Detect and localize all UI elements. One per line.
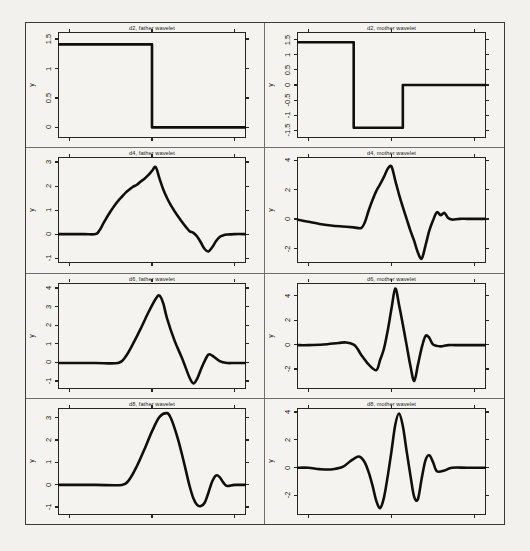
x-axis-tick (234, 515, 235, 518)
y-axis-tick (55, 325, 58, 326)
y-axis-tick (55, 68, 58, 69)
wavelet-path (297, 288, 486, 381)
y-axis-tick-right (246, 343, 249, 344)
wavelet-path (297, 42, 486, 127)
x-axis-tick-top (151, 29, 152, 32)
x-axis-tick-top (474, 279, 475, 282)
y-axis-tick (55, 258, 58, 259)
x-axis-tick-top (391, 405, 392, 408)
y-axis-tick (55, 186, 58, 187)
wavelet-path (58, 167, 246, 252)
y-axis-tick-right (246, 68, 249, 69)
x-axis-tick-top (69, 29, 70, 32)
x-axis-tick-top (391, 154, 392, 157)
x-axis-tick-top (391, 29, 392, 32)
y-axis-tick (294, 248, 297, 249)
x-axis-tick (69, 515, 70, 518)
x-axis-tick (151, 263, 152, 266)
panel-cell-d4-father: y -10123 d4, father wavelet (26, 148, 265, 273)
x-axis-tick (474, 263, 475, 266)
y-axis-tick (55, 343, 58, 344)
y-axis-tick-right (246, 97, 249, 98)
x-axis-tick (391, 515, 392, 518)
x-axis-tick-top (151, 405, 152, 408)
wavelet-curve (26, 148, 264, 272)
wavelet-curve (265, 23, 504, 147)
y-axis-tick-right (486, 368, 489, 369)
y-axis-tick (294, 368, 297, 369)
y-axis-tick (55, 417, 58, 418)
x-axis-tick-top (308, 279, 309, 282)
x-axis-tick-top (234, 279, 235, 282)
y-axis-tick-right (486, 84, 489, 85)
x-axis-tick-top (69, 279, 70, 282)
y-axis-tick (294, 130, 297, 131)
x-axis-tick (151, 138, 152, 141)
y-axis-tick-right (246, 161, 249, 162)
x-axis-tick (308, 515, 309, 518)
x-axis-tick-top (234, 29, 235, 32)
y-axis-tick-right (246, 186, 249, 187)
y-axis-tick-right (246, 462, 249, 463)
y-axis-tick (294, 411, 297, 412)
plot-d2-mother: y -1.5-1-0.500.511.5 d2, mother wavelet (265, 23, 504, 147)
panel-cell-d2-mother: y -1.5-1-0.500.511.5 d2, mother wavelet (265, 23, 504, 148)
x-axis-tick-top (69, 154, 70, 157)
y-axis-tick-right (246, 258, 249, 259)
panel-cell-d8-father: y -10123 d8, father wavelet (26, 399, 265, 524)
x-axis-tick-top (474, 405, 475, 408)
wavelet-figure-frame: y 00.511.5 d2, father wavelet y -1.5-1-0… (25, 22, 505, 525)
x-axis-tick (391, 263, 392, 266)
y-axis-tick-right (246, 234, 249, 235)
panel-grid: y 00.511.5 d2, father wavelet y -1.5-1-0… (26, 23, 504, 524)
y-axis-tick-right (246, 127, 249, 128)
y-axis-tick (55, 506, 58, 507)
plot-d2-father: y 00.511.5 d2, father wavelet (26, 23, 264, 147)
wavelet-path (297, 166, 486, 259)
x-axis-tick-top (474, 154, 475, 157)
y-axis-tick-right (486, 439, 489, 440)
y-axis-tick-right (486, 411, 489, 412)
x-axis-tick (474, 515, 475, 518)
plot-d8-mother: y -2024 d8, mother wavelet (265, 399, 504, 524)
y-axis-tick-right (246, 506, 249, 507)
y-axis-tick (55, 484, 58, 485)
y-axis-tick (294, 218, 297, 219)
y-axis-tick (294, 160, 297, 161)
y-axis-tick-right (486, 39, 489, 40)
x-axis-tick (308, 389, 309, 392)
x-axis-tick-top (151, 154, 152, 157)
plot-d6-mother: y -2024 d6, mother wavelet (265, 274, 504, 398)
y-axis-tick-right (246, 362, 249, 363)
panel-cell-d6-mother: y -2024 d6, mother wavelet (265, 274, 504, 399)
y-axis-tick-right (486, 295, 489, 296)
plot-d4-father: y -10123 d4, father wavelet (26, 148, 264, 272)
y-axis-tick-right (486, 130, 489, 131)
wavelet-curve (26, 399, 264, 524)
panel-cell-d4-mother: y -2024 d4, mother wavelet (265, 148, 504, 273)
x-axis-tick (308, 138, 309, 141)
x-axis-tick-top (308, 154, 309, 157)
x-axis-tick-top (391, 279, 392, 282)
x-axis-tick (474, 138, 475, 141)
wavelet-path (58, 44, 246, 127)
y-axis-tick (55, 380, 58, 381)
y-axis-tick-right (486, 69, 489, 70)
y-axis-tick (55, 210, 58, 211)
x-axis-tick (391, 138, 392, 141)
y-axis-tick (294, 344, 297, 345)
y-axis-tick (55, 234, 58, 235)
y-axis-tick-right (486, 100, 489, 101)
x-axis-tick (151, 389, 152, 392)
x-axis-tick-top (69, 405, 70, 408)
y-axis-tick (55, 439, 58, 440)
y-axis-tick-right (486, 248, 489, 249)
x-axis-tick-top (474, 29, 475, 32)
x-axis-tick (234, 389, 235, 392)
y-axis-tick-right (246, 306, 249, 307)
y-axis-tick (294, 115, 297, 116)
x-axis-tick (474, 389, 475, 392)
plot-d4-mother: y -2024 d4, mother wavelet (265, 148, 504, 272)
y-axis-tick-right (246, 38, 249, 39)
x-axis-tick (234, 263, 235, 266)
